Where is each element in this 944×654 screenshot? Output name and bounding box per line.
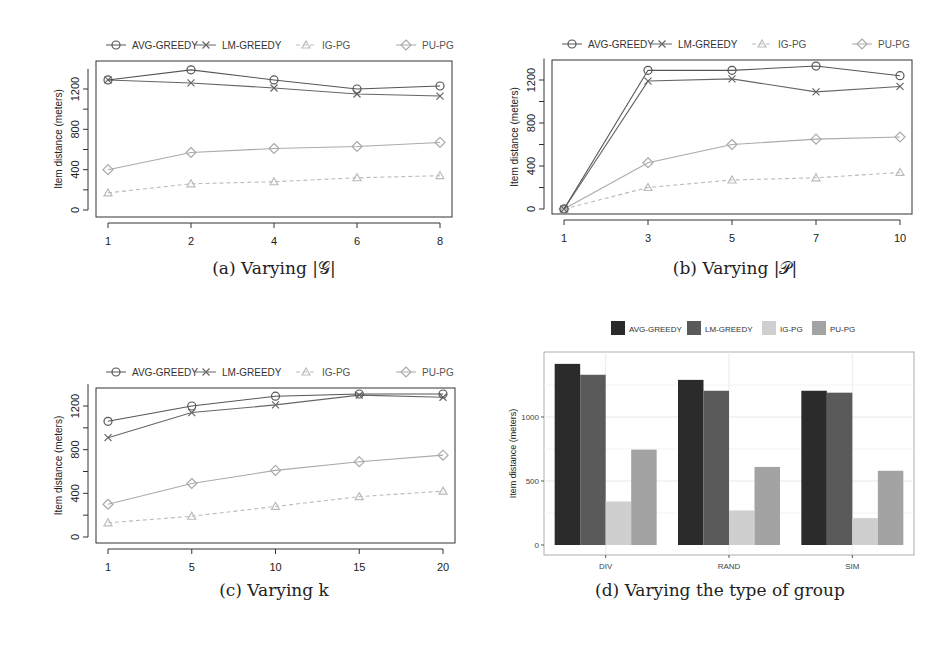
legend-label: IG-PG	[322, 40, 351, 51]
legend-item: IG-PG	[296, 367, 351, 378]
x-axis: 15101520	[105, 549, 449, 573]
data-point	[436, 172, 444, 179]
series-ig-pg	[560, 168, 904, 212]
legend-item: IG-PG	[752, 39, 807, 50]
series-avg-greedy	[104, 66, 444, 93]
y-axis-label: Item distance (meters)	[53, 89, 64, 188]
bar	[704, 391, 730, 545]
x-tick-label: 1	[105, 235, 111, 247]
x-tick-label: 3	[645, 232, 651, 244]
series-avg-greedy	[560, 62, 904, 213]
legend: AVG-GREEDYLM-GREEDYIG-PGPU-PG	[106, 40, 454, 51]
y-axis: 04008001200Item distance (meters)	[53, 384, 88, 540]
legend: AVG-GREEDYLM-GREEDYIG-PGPU-PG	[106, 367, 454, 378]
series-lm-greedy	[105, 392, 447, 442]
x-tick-label: 8	[437, 235, 443, 247]
line-chart-b: AVG-GREEDYLM-GREEDYIG-PGPU-PG04008001200…	[472, 0, 944, 250]
x-tick-label: 5	[189, 561, 195, 573]
y-tick-label: 800	[69, 120, 81, 138]
x-axis: DIVRANDSIM	[599, 555, 860, 571]
legend-item: IG-PG	[762, 321, 803, 335]
bar	[827, 393, 853, 545]
chart-panel-c: AVG-GREEDYLM-GREEDYIG-PGPU-PG04008001200…	[0, 360, 472, 585]
legend-item: LM-GREEDY	[196, 40, 282, 51]
legend-item: PU-PG	[396, 40, 454, 51]
y-tick-label: 1200	[69, 394, 81, 418]
legend-item: PU-PG	[812, 321, 855, 335]
legend-label: LM-GREEDY	[222, 40, 282, 51]
y-axis: 05001000Item distance (meters)	[508, 409, 544, 550]
bar	[555, 364, 581, 545]
bar	[631, 450, 657, 545]
y-tick-label: 500	[526, 477, 540, 486]
y-tick-label: 0	[69, 534, 81, 540]
bar	[606, 501, 632, 545]
legend-item: LM-GREEDY	[687, 321, 753, 335]
legend-label: PU-PG	[878, 39, 910, 50]
bar	[678, 380, 704, 545]
data-point	[896, 168, 904, 175]
legend-item: AVG-GREEDY	[106, 367, 198, 378]
x-tick-label: 5	[729, 232, 735, 244]
bar	[729, 510, 755, 545]
y-tick-label: 800	[69, 440, 81, 458]
legend-item: PU-PG	[396, 367, 454, 378]
x-tick-label: 2	[188, 235, 194, 247]
x-tick-label: 1	[561, 232, 567, 244]
legend-label: AVG-GREEDY	[588, 39, 654, 50]
legend-label: IG-PG	[780, 325, 803, 334]
legend-item: LM-GREEDY	[652, 39, 738, 50]
legend-item: AVG-GREEDY	[106, 40, 198, 51]
x-tick-label: 15	[353, 561, 365, 573]
legend-item: LM-GREEDY	[196, 367, 282, 378]
y-axis-label: Item distance (meters)	[53, 416, 64, 515]
y-axis: 04008001200Item distance (meters)	[53, 69, 88, 213]
y-axis-label: Item distance (meters)	[508, 409, 518, 499]
y-tick-label: 1200	[69, 77, 81, 101]
chart-panel-d: AVG-GREEDYLM-GREEDYIG-PGPU-PG05001000Ite…	[472, 310, 944, 580]
chart-panel-a: AVG-GREEDYLM-GREEDYIG-PGPU-PG04008001200…	[0, 0, 472, 250]
y-tick-label: 1000	[521, 413, 539, 422]
x-tick-label: 10	[269, 561, 281, 573]
caption-c: (c) Varying k	[96, 580, 452, 600]
legend-item: AVG-GREEDY	[562, 39, 654, 50]
legend-label: PU-PG	[422, 367, 454, 378]
legend-label: LM-GREEDY	[678, 39, 738, 50]
x-tick-label: SIM	[845, 562, 860, 571]
x-tick-label: 1	[105, 561, 111, 573]
legend-label: LM-GREEDY	[705, 325, 753, 334]
legend: AVG-GREEDYLM-GREEDYIG-PGPU-PG	[562, 39, 910, 50]
x-tick-label: RAND	[718, 562, 741, 571]
series-avg-greedy	[104, 390, 447, 425]
series-pu-pg	[103, 137, 445, 174]
y-tick-label: 1200	[525, 68, 537, 92]
chart-panel-b: AVG-GREEDYLM-GREEDYIG-PGPU-PG04008001200…	[472, 0, 944, 250]
y-axis: 04008001200Item distance (meters)	[509, 59, 544, 213]
legend-label: LM-GREEDY	[222, 367, 282, 378]
legend-label: IG-PG	[322, 367, 351, 378]
legend-label: IG-PG	[778, 39, 807, 50]
caption-d: (d) Varying the type of group	[540, 580, 900, 600]
legend-label: PU-PG	[830, 325, 855, 334]
data-point	[439, 487, 447, 494]
caption-b: (b) Varying |𝒫|	[555, 258, 915, 278]
legend-label: AVG-GREEDY	[629, 325, 682, 334]
y-axis-label: Item distance (meters)	[509, 87, 520, 186]
legend-item: AVG-GREEDY	[611, 321, 682, 335]
data-point	[105, 434, 112, 441]
x-tick-label: 7	[813, 232, 819, 244]
series-pu-pg	[559, 132, 905, 214]
caption-a: (a) Varying |𝒢|	[96, 258, 452, 278]
y-tick-label: 0	[69, 207, 81, 213]
legend: AVG-GREEDYLM-GREEDYIG-PGPU-PG	[611, 321, 855, 335]
y-tick-label: 0	[525, 206, 537, 212]
legend-item: PU-PG	[852, 39, 910, 50]
x-tick-label: 20	[437, 561, 449, 573]
x-axis: 12468	[105, 223, 443, 247]
y-tick-label: 800	[525, 114, 537, 132]
bar	[801, 391, 827, 545]
y-tick-label: 400	[525, 157, 537, 175]
series-ig-pg	[104, 172, 444, 196]
x-tick-label: 10	[894, 232, 906, 244]
plot-frame	[552, 60, 912, 214]
